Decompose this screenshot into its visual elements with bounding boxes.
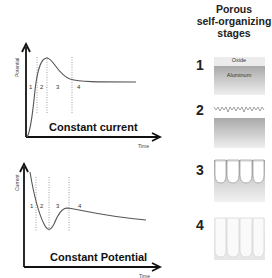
stage-4-illustration	[214, 218, 265, 260]
plot1-region-4: 4	[77, 84, 80, 90]
plot2-xlabel: Time	[139, 273, 150, 278]
plot1-title: Constant current	[49, 121, 138, 133]
oxide-label: Oxide	[214, 57, 264, 63]
stage-number-3: 3	[196, 162, 204, 178]
plot2-region-2: 2	[40, 203, 43, 209]
plot1-region-2: 2	[40, 84, 43, 90]
stage-number-4: 4	[196, 217, 204, 233]
stage-number-1: 1	[196, 57, 204, 73]
plot2-region-3: 3	[56, 203, 59, 209]
diagram-graphics	[0, 0, 272, 278]
plot1-xlabel: Time	[138, 143, 149, 149]
plot2-region-1: 1	[30, 203, 33, 209]
plot1-region-1: 1	[29, 84, 32, 90]
stage-3-illustration	[214, 160, 265, 202]
plot2-ylabel: Current	[14, 174, 20, 191]
plot1-region-3: 3	[56, 84, 59, 90]
aluminum-label: Aluminum	[214, 72, 264, 78]
plot2-region-4: 4	[78, 203, 81, 209]
stage-2-illustration	[214, 107, 265, 148]
stage-number-2: 2	[196, 102, 204, 118]
plot2-title: Constant Potential	[50, 251, 147, 263]
plot1-ylabel: Potential	[14, 58, 20, 77]
